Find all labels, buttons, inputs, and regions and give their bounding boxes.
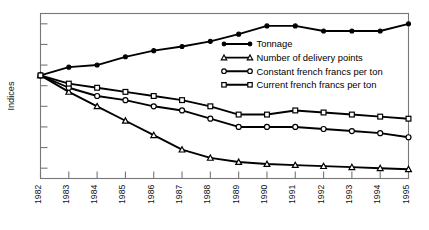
chart-canvas: 1982198319841985198619871988198919901991… [0,0,429,230]
data-point-marker [151,94,156,99]
x-tick-label: 1995 [401,184,411,204]
data-point-marker [151,132,157,137]
data-point-marker [322,29,326,33]
data-point-marker [151,104,156,109]
data-point-marker [248,83,252,87]
data-point-marker [180,108,185,113]
legend: TonnageNumber of delivery pointsConstant… [221,38,382,90]
data-point-marker [38,73,43,78]
legend-label: Tonnage [257,38,293,49]
data-point-marker [179,147,185,152]
x-tick-label: 1987 [174,184,184,204]
data-point-marker [123,89,128,94]
data-point-marker [406,116,411,121]
x-tick-label: 1985 [117,184,127,204]
data-point-marker [221,55,226,60]
legend-item-2: Number of delivery points [221,52,363,63]
x-tick-label: 1991 [287,184,297,204]
data-point-marker [264,124,269,129]
data-point-marker [236,112,241,117]
legend-item-3: Constant french francs per ton [222,66,383,77]
data-point-marker [293,108,298,113]
y-axis-title: Indices [6,81,16,111]
data-point-marker [247,55,252,60]
x-tick-label: 1992 [316,184,326,204]
data-point-marker [293,124,298,129]
x-tick-label: 1988 [202,184,212,204]
data-point-marker [222,69,227,74]
data-point-marker [248,42,252,46]
data-point-marker [349,129,354,134]
legend-label: Number of delivery points [257,52,364,63]
data-point-marker [180,45,184,49]
data-point-marker [95,85,100,90]
legend-item-1: Tonnage [222,38,292,49]
x-axis-ticks: 1982198319841985198619871988198919901991… [33,172,411,205]
data-point-marker [152,49,156,53]
data-point-marker [66,81,71,86]
data-point-marker [123,118,129,123]
x-tick-label: 1982 [33,184,43,204]
data-point-marker [95,94,100,99]
data-point-marker [236,159,242,164]
legend-label: Current french francs per ton [257,79,377,90]
data-point-marker [208,116,213,121]
data-point-marker [407,22,411,26]
data-point-marker [321,163,327,168]
data-point-marker [349,164,355,169]
x-tick-label: 1989 [231,184,241,204]
data-point-marker [222,42,226,46]
data-point-marker [378,114,383,119]
data-point-marker [123,98,128,103]
legend-item-4: Current french francs per ton [222,79,377,90]
data-point-marker [293,24,297,28]
data-point-marker [236,124,241,129]
data-point-marker [321,127,326,132]
x-tick-label: 1986 [146,184,156,204]
data-point-marker [265,24,269,28]
data-point-marker [350,29,354,33]
x-tick-label: 1994 [372,184,382,204]
x-tick-label: 1990 [259,184,269,204]
data-point-marker [377,165,383,170]
data-point-marker [237,32,241,36]
x-tick-label: 1983 [61,184,71,204]
data-point-marker [349,112,354,117]
data-point-marker [95,63,99,67]
data-point-marker [123,55,127,59]
data-point-marker [321,110,326,115]
data-point-marker [265,112,270,117]
data-point-marker [264,161,270,166]
data-point-marker [406,135,411,140]
data-point-marker [378,29,382,33]
legend-label: Constant french francs per ton [257,66,383,77]
data-point-marker [222,83,226,87]
data-point-marker [208,39,212,43]
y-axis-ticks [41,24,48,168]
data-point-marker [378,131,383,136]
data-point-marker [248,69,253,74]
data-point-marker [208,104,213,109]
data-point-marker [180,98,185,103]
line-chart: 1982198319841985198619871988198919901991… [0,0,429,230]
data-point-marker [207,155,213,160]
x-tick-label: 1993 [344,184,354,204]
data-point-marker [94,103,100,108]
x-tick-label: 1984 [89,184,99,204]
data-point-marker [406,166,412,171]
data-point-marker [292,162,298,167]
data-point-marker [67,65,71,69]
